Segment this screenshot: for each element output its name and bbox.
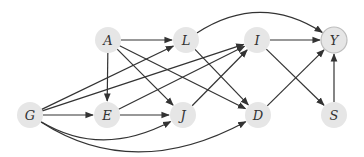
node-label-a: A — [102, 33, 112, 48]
node-d: D — [245, 102, 271, 128]
node-y: Y — [321, 27, 347, 53]
node-j: J — [170, 102, 196, 128]
node-label-e: E — [101, 108, 112, 123]
node-l: L — [173, 27, 199, 53]
edge-e-to-i — [119, 46, 245, 109]
node-label-y: Y — [330, 33, 340, 48]
node-g: G — [17, 102, 43, 128]
node-label-d: D — [252, 108, 264, 123]
node-a: A — [95, 27, 121, 53]
node-label-s: S — [330, 108, 339, 123]
node-i: I — [244, 27, 270, 53]
node-label-g: G — [25, 108, 35, 123]
node-s: S — [321, 102, 347, 128]
edge-i-to-s — [266, 49, 324, 105]
edge-g-to-i — [42, 44, 243, 111]
causal-diagram: ALIYGEJDS — [0, 0, 364, 157]
node-label-l: L — [181, 33, 191, 48]
node-e: E — [94, 102, 120, 128]
edge-g-to-d — [41, 122, 246, 152]
node-label-i: I — [253, 33, 260, 48]
